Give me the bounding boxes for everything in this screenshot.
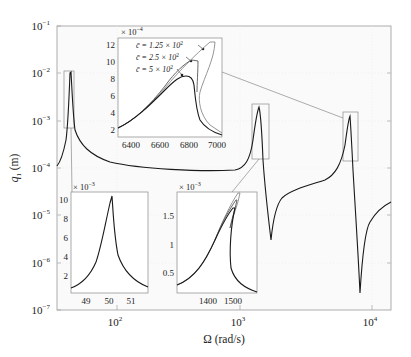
svg-text:8: 8	[111, 74, 116, 84]
svg-text:4: 4	[64, 252, 69, 262]
svg-text:50: 50	[105, 296, 115, 306]
svg-text:1: 1	[170, 240, 175, 250]
svg-text:1400: 1400	[199, 296, 218, 306]
y-tick-label: 10−7	[32, 303, 51, 316]
svg-text:6: 6	[64, 233, 69, 243]
y-axis-title: q1 (m)	[8, 153, 23, 182]
x-tick-label: 102	[108, 315, 123, 328]
y-tick-labels: 10−1 10−2 10−3 10−4 10−5 10−6 10−7	[32, 19, 51, 316]
y-tick-label: 10−1	[32, 19, 51, 32]
x-axis-title: Ω (rad/s)	[203, 333, 245, 346]
svg-text:8: 8	[64, 214, 69, 224]
y-tick-label: 10−5	[32, 208, 51, 221]
svg-text:6600: 6600	[151, 140, 170, 150]
svg-text:10: 10	[106, 57, 116, 67]
legend-c125: c̄ = 1.25 × 102	[136, 40, 183, 50]
svg-text:6400: 6400	[122, 140, 141, 150]
legend-c250: c̄ = 2.5 × 102	[136, 52, 179, 62]
legend-c500: c̄ = 5 × 102	[136, 64, 173, 74]
y-tick-label: 10−6	[32, 256, 51, 269]
svg-text:4: 4	[111, 108, 116, 118]
inset-top: × 10−4 12 10 8 6 4 2 6400 6600 6800 7000…	[106, 26, 227, 150]
svg-text:7000: 7000	[208, 140, 227, 150]
svg-text:51: 51	[127, 296, 136, 306]
svg-text:0.5: 0.5	[163, 268, 175, 278]
svg-text:6800: 6800	[180, 140, 199, 150]
svg-text:12: 12	[106, 40, 115, 50]
inset-bl-x-ticks: 49 50 51	[82, 296, 136, 306]
inset-bottom-middle: × 10−3 1.5 1 0.5 1400 1500	[163, 181, 257, 306]
svg-text:1500: 1500	[224, 296, 243, 306]
y-tick-label: 10−3	[32, 114, 51, 127]
svg-text:6: 6	[111, 91, 116, 101]
svg-text:1.5: 1.5	[163, 211, 175, 221]
frequency-response-chart: 10−1 10−2 10−3 10−4 10−5 10−6 10−7 102 1…	[0, 0, 411, 357]
inset-bottom-left: × 10−3 10 8 6 4 2 49 50 51	[59, 181, 148, 306]
svg-text:2: 2	[111, 125, 116, 135]
x-tick-label: 103	[231, 315, 246, 328]
svg-text:2: 2	[64, 271, 69, 281]
y-tick-label: 10−2	[32, 66, 51, 79]
y-tick-label: 10−4	[32, 161, 51, 174]
x-tick-label: 104	[363, 315, 378, 328]
x-tick-labels: 102 103 104	[108, 315, 378, 328]
svg-text:10: 10	[59, 195, 69, 205]
svg-text:49: 49	[82, 296, 92, 306]
